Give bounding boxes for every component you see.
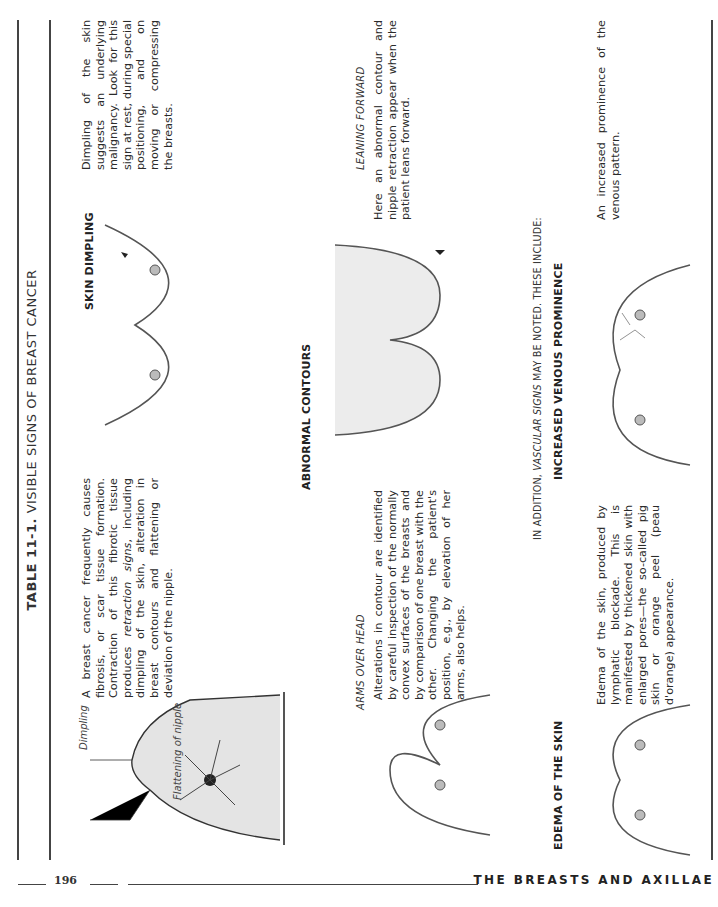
skin-dimpling-heading: SKIN DIMPLING xyxy=(83,212,96,310)
venous-prominence-illustration xyxy=(570,260,700,470)
arms-over-head-label: ARMS OVER HEAD xyxy=(355,614,366,710)
footer-dash-right xyxy=(90,884,118,885)
table-top-rule xyxy=(17,20,19,860)
table-title: TABLE 11-1. VISIBLE SIGNS OF BREAST CANC… xyxy=(24,10,39,870)
vascular-signs-note: IN ADDITION, VASCULAR SIGNS MAY BE NOTED… xyxy=(532,217,543,540)
arms-over-head-text: Alterations in contour are identified by… xyxy=(372,490,467,700)
diagram-label-flattening-of-nipple: Flattening of nipple xyxy=(172,703,183,800)
leaning-forward-illustration xyxy=(330,240,450,440)
abnormal-contours-heading: ABNORMAL CONTOURS xyxy=(300,344,313,490)
rotated-table: TABLE 11-1. VISIBLE SIGNS OF BREAST CANC… xyxy=(0,10,718,870)
leaning-forward-text: Here an abnormal contour and nipple retr… xyxy=(372,20,413,220)
footer-rule xyxy=(128,884,478,885)
table-bottom-rule xyxy=(711,20,713,860)
intro-paragraph: A breast cancer frequently causes fibros… xyxy=(80,478,175,698)
skin-dimpling-illustration xyxy=(95,220,225,430)
edema-heading: EDEMA OF THE SKIN xyxy=(552,721,565,850)
diagram-label-dimpling: Dimpling xyxy=(78,705,89,750)
page-footer: 196 THE BREASTS AND AXILLAE xyxy=(0,872,718,902)
table-title-text: VISIBLE SIGNS OF BREAST CANCER xyxy=(24,270,39,514)
leaning-forward-label: LEANING FORWARD xyxy=(355,66,366,170)
table-number: TABLE 11-1. xyxy=(24,518,39,611)
footer-dash-left xyxy=(18,884,46,885)
edema-illustration xyxy=(570,700,700,860)
table-title-rule xyxy=(49,20,51,860)
running-head: THE BREASTS AND AXILLAE xyxy=(473,873,714,887)
venous-prominence-heading: INCREASED VENOUS PROMINENCE xyxy=(552,263,565,480)
arms-over-head-illustration xyxy=(330,690,500,840)
edema-text: Edema of the skin, produced by lymphatic… xyxy=(595,505,677,705)
skin-dimpling-text: Dimpling of the skin suggests an underly… xyxy=(80,20,175,170)
page-number: 196 xyxy=(54,874,77,887)
venous-prominence-text: An increased prominence of the venous pa… xyxy=(595,20,622,220)
